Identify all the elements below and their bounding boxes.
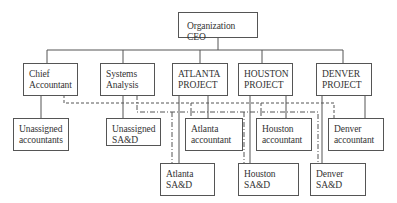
- node-organization-ceo: Organization CEO: [178, 12, 258, 38]
- node-houston-sad: Houston SA&D: [238, 163, 299, 196]
- node-houston-project: HOUSTON PROJECT: [238, 63, 293, 96]
- node-chief-accountant: Chief Accountant: [23, 63, 78, 96]
- node-denver-project: DENVER PROJECT: [316, 63, 372, 96]
- node-atlanta-accountant: Atlanta accountant: [185, 118, 243, 151]
- node-atlanta-sad: Atlanta SA&D: [160, 163, 215, 196]
- node-systems-analysis: Systems Analysis: [100, 63, 155, 96]
- node-unassigned-accountants: Unassigned accountants: [13, 118, 69, 151]
- node-unassigned-sad: Unassigned SA&D: [106, 118, 161, 146]
- node-atlanta-project: ATLANTA PROJECT: [172, 63, 228, 96]
- node-houston-accountant: Houston accountant: [256, 118, 312, 151]
- node-denver-accountant: Denver accountant: [328, 118, 384, 151]
- node-denver-sad: Denver SA&D: [310, 163, 366, 196]
